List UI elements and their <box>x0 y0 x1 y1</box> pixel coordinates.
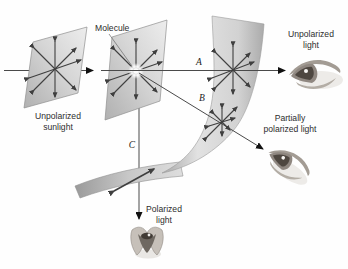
molecule-label: Molecule <box>95 23 130 33</box>
ray-b-label: B <box>199 93 205 103</box>
diagram-canvas: Molecule Unpolarized sunlight A B C Unpo… <box>0 0 348 269</box>
unpolarized-light-label-line1: Unpolarized <box>288 29 334 39</box>
scattered-light-sheet <box>162 16 264 173</box>
unpolarized-light-label-line2: light <box>303 40 319 50</box>
partially-polarized-light-label-line2: polarized light <box>263 124 317 134</box>
partially-polarized-light-label-line1: Partially <box>275 113 306 123</box>
polarized-light-label-line1: Polarized <box>146 204 182 214</box>
eye-icon <box>289 60 343 89</box>
polarization-diagram: Molecule Unpolarized sunlight A B C Unpo… <box>0 0 348 269</box>
polarized-light-sheet <box>75 162 183 198</box>
ray-c-label: C <box>129 140 136 150</box>
unpolarized-sunlight-label-line1: Unpolarized <box>35 111 81 121</box>
eye-icon <box>131 227 163 258</box>
unpolarized-sunlight-label-line2: sunlight <box>43 122 73 132</box>
polarized-light-label-line2: light <box>156 215 172 225</box>
ray-a-label: A <box>195 57 202 67</box>
eye-icon <box>262 141 317 189</box>
unpolarized-sunlight-panel <box>24 27 87 108</box>
